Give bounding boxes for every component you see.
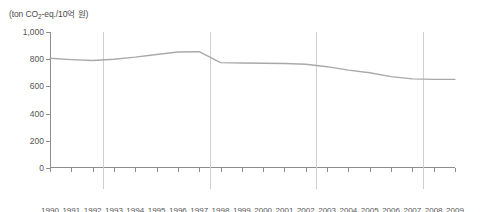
- x-tick-mark: [199, 168, 200, 172]
- x-tick-label: 1997: [190, 206, 208, 212]
- x-tick-label: 1996: [169, 206, 187, 212]
- unit-label-subscript: 2: [38, 13, 42, 20]
- x-tick-mark: [412, 168, 413, 172]
- x-tick-mark: [178, 168, 179, 172]
- x-tick-mark: [135, 168, 136, 172]
- x-tick-mark: [221, 168, 222, 172]
- x-tick-label: 2002: [297, 206, 315, 212]
- x-tick-label: 2005: [361, 206, 379, 212]
- y-tick-label: 200: [30, 136, 44, 146]
- plot-area: 02004006008001,000 199019911992199319941…: [50, 32, 455, 168]
- x-tick-mark: [348, 168, 349, 172]
- x-tick-mark: [50, 168, 51, 172]
- x-tick-mark: [114, 168, 115, 172]
- x-tick-label: 2003: [318, 206, 336, 212]
- x-tick-label: 1992: [84, 206, 102, 212]
- x-tick-label: 1991: [62, 206, 80, 212]
- x-tick-mark: [370, 168, 371, 172]
- x-tick-mark: [455, 168, 456, 172]
- y-axis-unit-label: (ton CO2-eq./10억 원): [9, 7, 88, 19]
- x-tick-label: 2004: [340, 206, 358, 212]
- x-tick-mark: [157, 168, 158, 172]
- x-tick-mark: [434, 168, 435, 172]
- y-tick-label: 1,000: [23, 27, 44, 37]
- y-tick-label: 600: [30, 81, 44, 91]
- x-tick-mark: [71, 168, 72, 172]
- x-tick-mark: [93, 168, 94, 172]
- x-tick-label: 2009: [446, 206, 464, 212]
- x-tick-label: 1990: [41, 206, 59, 212]
- x-tick-label: 1993: [105, 206, 123, 212]
- x-tick-label: 1998: [212, 206, 230, 212]
- x-tick-label: 2008: [425, 206, 443, 212]
- x-tick-label: 1999: [233, 206, 251, 212]
- x-tick-mark: [391, 168, 392, 172]
- y-tick-label: 800: [30, 54, 44, 64]
- x-tick-mark: [263, 168, 264, 172]
- x-tick-mark: [284, 168, 285, 172]
- series-line-chart: [50, 32, 455, 168]
- x-tick-label: 1995: [148, 206, 166, 212]
- x-tick-mark: [327, 168, 328, 172]
- x-tick-label: 1994: [126, 206, 144, 212]
- x-tick-label: 2001: [276, 206, 294, 212]
- unit-label-prefix: (ton CO: [9, 9, 38, 19]
- x-tick-mark: [242, 168, 243, 172]
- x-tick-mark: [306, 168, 307, 172]
- chart-screenshot: (ton CO2-eq./10억 원) 02004006008001,000 1…: [0, 0, 489, 212]
- x-tick-label: 2007: [403, 206, 421, 212]
- series-line-emissions-intensity: [50, 52, 455, 80]
- x-tick-label: 2000: [254, 206, 272, 212]
- x-tick-label: 2006: [382, 206, 400, 212]
- unit-label-suffix: -eq./10억 원): [42, 9, 89, 19]
- y-tick-label: 0: [39, 163, 44, 173]
- y-tick-label: 400: [30, 109, 44, 119]
